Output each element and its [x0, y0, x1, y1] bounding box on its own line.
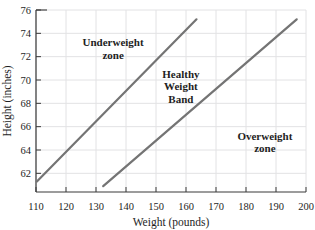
overweight-zone-label-line-2: zone	[254, 142, 276, 154]
y-tick-label: 72	[21, 51, 32, 62]
x-tick-label: 180	[238, 201, 254, 212]
y-tick-label: 70	[21, 75, 32, 86]
healthy-weight-chart: UnderweightzoneHealthyWeightBandOverweig…	[0, 0, 315, 230]
annotation-layer: UnderweightzoneHealthyWeightBandOverweig…	[83, 36, 293, 154]
healthy-weight-band-label-line-3: Band	[168, 93, 193, 105]
x-axis-title: Weight (pounds)	[133, 216, 210, 229]
healthy-weight-band-label-line-2: Weight	[164, 80, 198, 92]
tick-label-layer: 1101201301401501601701801902006264666870…	[21, 5, 314, 213]
overweight-zone-label-line-1: Overweight	[237, 130, 292, 142]
underweight-zone-label-line-1: Underweight	[83, 36, 144, 48]
y-tick-label: 62	[21, 168, 32, 179]
y-tick-label: 74	[21, 28, 32, 39]
x-tick-label: 200	[298, 201, 314, 212]
x-tick-label: 140	[118, 201, 134, 212]
healthy-weight-band-label: HealthyWeightBand	[162, 68, 200, 105]
x-tick-label: 130	[88, 201, 104, 212]
x-tick-label: 190	[268, 201, 284, 212]
x-tick-label: 160	[178, 201, 194, 212]
underweight-zone-label-line-2: zone	[102, 49, 124, 61]
y-tick-label: 76	[21, 5, 32, 16]
x-tick-label: 150	[148, 201, 164, 212]
x-tick-label: 110	[28, 201, 43, 212]
chart-canvas: UnderweightzoneHealthyWeightBandOverweig…	[0, 0, 315, 230]
y-tick-label: 66	[21, 121, 32, 132]
healthy-weight-band-label-line-1: Healthy	[162, 68, 200, 80]
series-layer	[37, 19, 297, 186]
x-tick-label: 170	[208, 201, 224, 212]
y-axis-title: Height (inches)	[1, 65, 14, 136]
y-tick-label: 64	[21, 145, 32, 156]
x-tick-label: 120	[58, 201, 74, 212]
y-tick-label: 68	[21, 98, 32, 109]
